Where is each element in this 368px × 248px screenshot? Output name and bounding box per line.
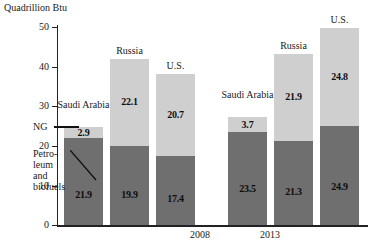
group-label-2013: 2013 xyxy=(250,229,290,240)
x-axis-line xyxy=(57,225,368,227)
bar-segment-ng: 3.7 xyxy=(228,117,267,132)
callout-petroleum-line-3: and xyxy=(33,170,75,181)
bar-segment-petroleum: 24.9 xyxy=(320,126,359,225)
bar-value-ng: 21.9 xyxy=(285,92,302,102)
bar-us-2013[interactable]: 24.8 24.9 U.S. xyxy=(320,28,359,225)
bar-segment-ng: 22.1 xyxy=(110,59,149,147)
bar-label-russia-2008: Russia xyxy=(116,45,143,56)
bar-segment-ng: 24.8 xyxy=(320,28,359,126)
y-axis-tick-mark-40 xyxy=(52,67,57,68)
y-axis-tick-label-0: 0 xyxy=(27,220,49,230)
bar-us-2008[interactable]: 20.7 17.4 U.S. xyxy=(156,74,195,225)
bar-segment-petroleum: 17.4 xyxy=(156,156,195,225)
callout-leader-line-ng xyxy=(54,126,79,128)
y-axis-tick-label-50: 50 xyxy=(27,22,49,32)
bar-segment-petroleum: 19.9 xyxy=(110,146,149,225)
bar-segment-ng: 2.9 xyxy=(64,127,103,139)
y-axis-tick-mark-50 xyxy=(52,27,57,28)
bar-label-saudi-arabia-2013: Saudi Arabia xyxy=(221,89,275,100)
bar-label-us-2013: U.S. xyxy=(331,14,349,25)
bar-segment-petroleum: 21.3 xyxy=(274,141,313,225)
bar-label-saudi-arabia-2008: Saudi Arabia xyxy=(57,99,111,110)
bar-value-petroleum: 21.3 xyxy=(285,187,302,197)
bar-value-ng: 22.1 xyxy=(121,97,138,107)
bar-russia-2008[interactable]: 22.1 19.9 Russia xyxy=(110,59,149,225)
bar-segment-ng: 20.7 xyxy=(156,74,195,156)
bar-value-petroleum: 23.5 xyxy=(239,184,256,194)
bar-value-petroleum: 24.9 xyxy=(331,182,348,192)
bar-value-petroleum: 21.9 xyxy=(75,190,92,200)
y-axis-tick-label-30: 30 xyxy=(27,101,49,111)
callout-label-petroleum: Petro- leum and biofuels xyxy=(33,148,75,192)
bar-value-ng: 2.9 xyxy=(78,128,90,138)
bar-segment-petroleum: 23.5 xyxy=(228,132,267,225)
bar-russia-2013[interactable]: 21.9 21.3 Russia xyxy=(274,54,313,225)
bar-value-ng: 3.7 xyxy=(242,120,254,130)
callout-petroleum-line-2: leum xyxy=(33,159,75,170)
bar-label-us-2008: U.S. xyxy=(167,60,185,71)
callout-petroleum-line-4: biofuels xyxy=(33,181,75,192)
bar-saudi-arabia-2013[interactable]: 3.7 23.5 Saudi Arabia xyxy=(228,117,267,225)
y-axis-tick-mark-0 xyxy=(52,225,57,226)
y-axis-title: Quadrillion Btu xyxy=(4,2,67,14)
bar-segment-ng: 21.9 xyxy=(274,54,313,141)
bar-value-petroleum: 17.4 xyxy=(167,194,184,204)
y-axis-tick-label-40: 40 xyxy=(27,62,49,72)
bar-value-ng: 20.7 xyxy=(167,110,184,120)
y-axis-tick-mark-20 xyxy=(52,146,57,147)
stacked-bar-chart: Quadrillion Btu 50 40 30 20 10 0 2.9 21.… xyxy=(0,0,368,248)
bar-label-russia-2013: Russia xyxy=(280,40,307,51)
callout-label-ng: NG xyxy=(33,121,47,132)
group-label-2008: 2008 xyxy=(180,229,220,240)
bar-value-petroleum: 19.9 xyxy=(121,190,138,200)
bar-value-ng: 24.8 xyxy=(331,72,348,82)
callout-leader-line-petroleum xyxy=(70,150,100,184)
callout-petroleum-line-1: Petro- xyxy=(33,148,75,159)
